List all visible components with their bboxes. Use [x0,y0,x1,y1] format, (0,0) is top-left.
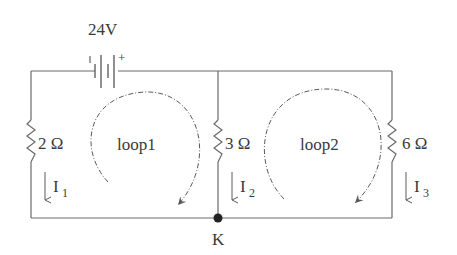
resistor-2ohm-label: 2 Ω [38,134,63,153]
node-k: K [212,214,225,250]
circuit-diagram: + 24V 2 Ω 3 Ω 6 Ω I 1 I 2 I 3 loop1 loop… [0,0,457,255]
loop2-label: loop2 [300,135,339,154]
current-i1: I 1 [45,172,68,200]
loop1-label: loop1 [117,135,156,154]
resistor-3ohm-label: 3 Ω [225,134,250,153]
svg-text:I: I [240,177,246,196]
resistor-6ohm: 6 Ω [388,120,427,162]
source-voltage-label: 24V [88,20,118,39]
current-i2: I 2 [232,172,255,200]
loop2: loop2 [264,89,381,203]
node-k-label: K [212,230,225,249]
resistor-6ohm-label: 6 Ω [402,134,427,153]
svg-text:1: 1 [62,186,68,200]
svg-text:2: 2 [249,186,255,200]
svg-text:3: 3 [423,186,429,200]
loop1: loop1 [91,92,200,205]
plus-sign: + [118,50,125,65]
resistor-3ohm: 3 Ω [214,120,250,162]
resistor-2ohm: 2 Ω [27,120,63,162]
battery-24v: + 24V [88,20,125,88]
current-i3: I 3 [406,172,429,200]
svg-text:I: I [414,177,420,196]
svg-text:I: I [53,177,59,196]
